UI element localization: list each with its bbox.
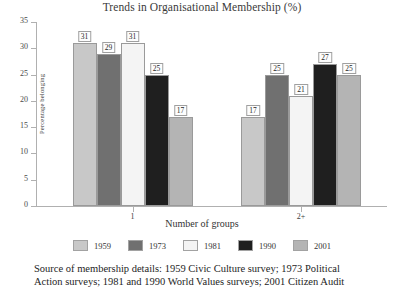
- bar[interactable]: 31: [121, 43, 145, 206]
- legend-item-2001[interactable]: 2001: [293, 240, 331, 251]
- plot-area: Percentage belonging 05101520253035 3129…: [36, 22, 387, 207]
- y-tick-label-35: 35: [20, 16, 28, 25]
- y-axis-line: [36, 22, 37, 207]
- bar-value-label: 17: [246, 105, 260, 116]
- bar[interactable]: 25: [265, 75, 289, 206]
- legend-swatch-1973: [128, 240, 143, 251]
- bar-group: 1725212725: [241, 22, 361, 206]
- chart-title: Trends in Organisational Membership (%): [0, 1, 404, 13]
- legend-swatch-1990: [238, 240, 253, 251]
- bar-rect-2001[interactable]: [337, 75, 361, 206]
- bar-value-label: 27: [318, 52, 332, 63]
- bar-rect-1981[interactable]: [121, 43, 145, 206]
- bar[interactable]: 29: [97, 54, 121, 206]
- y-tick-label-25: 25: [20, 69, 28, 78]
- bar[interactable]: 27: [313, 64, 337, 206]
- legend-swatch-1959: [73, 240, 88, 251]
- bar-rect-1973[interactable]: [265, 75, 289, 206]
- bar[interactable]: 25: [337, 75, 361, 206]
- legend-swatch-2001: [293, 240, 308, 251]
- bar[interactable]: 25: [145, 75, 169, 206]
- source-line-2: Action surveys; 1981 and 1990 World Valu…: [34, 275, 394, 287]
- legend-label-1973: 1973: [149, 241, 166, 251]
- bar[interactable]: 21: [289, 96, 313, 206]
- bar-value-label: 31: [126, 31, 140, 42]
- bar-value-label: 25: [270, 63, 284, 74]
- source-line-1: Source of membership details: 1959 Civic…: [34, 262, 394, 275]
- legend-item-1990[interactable]: 1990: [238, 240, 276, 251]
- y-tick-label-10: 10: [20, 147, 28, 156]
- bar-rect-1959[interactable]: [241, 117, 265, 206]
- y-tick-15: 15: [31, 127, 36, 128]
- bar-rect-2001[interactable]: [169, 117, 193, 206]
- y-tick-label-5: 5: [24, 174, 28, 183]
- bar-rect-1990[interactable]: [145, 75, 169, 206]
- source-note: Source of membership details: 1959 Civic…: [34, 262, 394, 287]
- bar-value-label: 25: [150, 63, 164, 74]
- bar-rect-1959[interactable]: [73, 43, 97, 206]
- legend-item-1973[interactable]: 1973: [128, 240, 166, 251]
- y-axis-label: Percentage belonging: [38, 74, 45, 134]
- y-tick-25: 25: [31, 75, 36, 76]
- bar[interactable]: 31: [73, 43, 97, 206]
- x-axis-label: Number of groups: [0, 218, 404, 229]
- bar-rect-1990[interactable]: [313, 64, 337, 206]
- legend-item-1981[interactable]: 1981: [183, 240, 221, 251]
- y-tick-0: 0: [31, 206, 36, 207]
- bar[interactable]: 17: [241, 117, 265, 206]
- bar-value-label: 17: [174, 105, 188, 116]
- bar-rect-1973[interactable]: [97, 54, 121, 206]
- bar[interactable]: 17: [169, 117, 193, 206]
- bar-value-label: 21: [294, 84, 308, 95]
- x-axis-line: [36, 206, 387, 207]
- bar-rect-1981[interactable]: [289, 96, 313, 206]
- legend-label-2001: 2001: [314, 241, 331, 251]
- y-tick-label-30: 30: [20, 42, 28, 51]
- y-tick-label-0: 0: [24, 200, 28, 209]
- bar-value-label: 31: [78, 31, 92, 42]
- bar-value-label: 29: [102, 42, 116, 53]
- y-tick-20: 20: [31, 101, 36, 102]
- legend-label-1990: 1990: [259, 241, 276, 251]
- bar-group: 3129312517: [73, 22, 193, 206]
- legend-label-1959: 1959: [94, 241, 111, 251]
- y-tick-label-15: 15: [20, 121, 28, 130]
- y-tick-35: 35: [31, 22, 36, 23]
- legend-swatch-1981: [183, 240, 198, 251]
- chart-figure: Trends in Organisational Membership (%) …: [0, 0, 404, 287]
- bar-value-label: 25: [342, 63, 356, 74]
- legend-label-1981: 1981: [204, 241, 221, 251]
- y-tick-30: 30: [31, 48, 36, 49]
- legend-item-1959[interactable]: 1959: [73, 240, 111, 251]
- y-tick-5: 5: [31, 180, 36, 181]
- y-tick-label-20: 20: [20, 95, 28, 104]
- y-tick-10: 10: [31, 153, 36, 154]
- chart-legend: 19591973198119902001: [0, 240, 404, 251]
